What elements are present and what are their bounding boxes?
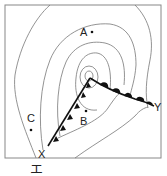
point-b-label: B — [80, 115, 87, 127]
point-a-label: A — [80, 26, 88, 38]
weather-map: A B C X Y — [0, 0, 167, 176]
isobar-6b — [135, 5, 151, 108]
cold-front — [48, 78, 91, 146]
point-c-dot — [30, 129, 33, 132]
warm-front — [90, 78, 154, 106]
figure-caption: エ — [30, 158, 43, 176]
point-b-dot — [85, 110, 88, 113]
point-c-label: C — [27, 112, 35, 124]
point-a-dot — [91, 31, 94, 34]
endpoint-y-label: Y — [154, 101, 162, 113]
isobar-6 — [15, 5, 50, 158]
